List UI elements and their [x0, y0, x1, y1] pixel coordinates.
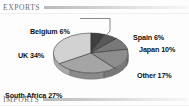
pie-label-spain: Spain 6%	[133, 33, 164, 42]
header-rule-exports	[44, 6, 187, 9]
pie-label-other: Other 17%	[137, 71, 172, 80]
pie-label-belgium: Belgium 6%	[30, 27, 70, 36]
header-divider-bottom	[0, 105, 189, 106]
header-rule-imports	[43, 98, 187, 101]
section-header-exports: EXPORTS	[0, 1, 189, 13]
section-header-imports: IMPORTS	[0, 93, 189, 105]
section-title-exports: EXPORTS	[0, 3, 40, 12]
pie-top-face	[53, 33, 128, 73]
section-title-imports: IMPORTS	[0, 95, 39, 104]
pie-label-uk: UK 34%	[18, 51, 44, 60]
pie-chart-exports: Belgium 6% Spain 6% Japan 10% Other 17% …	[0, 13, 189, 93]
exports-imports-panel: EXPORTS	[0, 0, 189, 108]
pie-label-japan: Japan 10%	[139, 45, 175, 54]
